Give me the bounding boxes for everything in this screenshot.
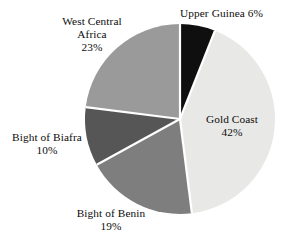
slice-label-bight-of-biafra: Bight of Biafra 10% bbox=[2, 131, 92, 157]
slice-label-west-central-africa-percent: 23% bbox=[46, 41, 138, 54]
slice-label-bight-of-biafra-line1: Bight of Biafra bbox=[2, 131, 92, 144]
slice-label-gold-coast: Gold Coast 42% bbox=[196, 113, 268, 139]
slice-label-gold-coast-line1: Gold Coast bbox=[196, 113, 268, 126]
slice-label-west-central-africa-line1: West Central bbox=[46, 15, 138, 28]
pie-chart-figure: Upper Guinea 6% West Central Africa 23% … bbox=[0, 0, 289, 244]
slice-label-bight-of-benin: Bight of Benin 19% bbox=[62, 207, 160, 233]
slice-label-upper-guinea-text: Upper Guinea 6% bbox=[180, 7, 263, 19]
slice-label-bight-of-benin-percent: 19% bbox=[62, 220, 160, 233]
slice-label-upper-guinea: Upper Guinea 6% bbox=[180, 7, 263, 20]
slice-label-gold-coast-percent: 42% bbox=[196, 126, 268, 139]
slice-label-west-central-africa-line2: Africa bbox=[46, 28, 138, 41]
slice-label-bight-of-benin-line1: Bight of Benin bbox=[62, 207, 160, 220]
slice-label-bight-of-biafra-percent: 10% bbox=[2, 144, 92, 157]
slice-label-west-central-africa: West Central Africa 23% bbox=[46, 15, 138, 55]
